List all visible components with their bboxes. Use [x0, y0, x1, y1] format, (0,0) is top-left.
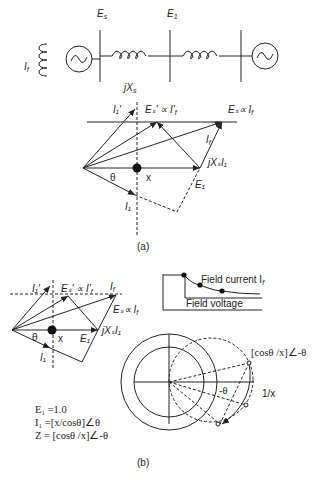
label-es-if: Eₛ∝ If: [228, 104, 254, 116]
equation-e1: E₁ =1.0: [35, 404, 67, 415]
reactance-label: jXs: [122, 82, 137, 94]
circuit-diagram: If Es jXs E1: [24, 8, 278, 94]
b-label-x: x: [58, 333, 63, 344]
b-label-jxs-i1: jXₛI₁: [100, 325, 121, 336]
phasor-figure: If Es jXs E1: [0, 0, 323, 480]
inductor-right-icon: [183, 51, 217, 59]
radius-label: 1/x: [262, 388, 275, 399]
equation-i1: I₁ =[x/cosθ]∠θ: [35, 417, 100, 428]
b-label-es-prime: Eₛ′ ∝ I′f: [61, 283, 94, 295]
label-es-prime: Eₛ′ ∝ I′f: [145, 104, 178, 116]
generator-left-icon: [66, 46, 92, 72]
b-label-theta: θ: [32, 332, 38, 343]
generator-right-icon: [252, 43, 278, 69]
label-jxs-i1: jXₛI₁: [206, 157, 227, 168]
field-current-label: If: [24, 61, 30, 73]
field-current-curve-label: Field current If: [201, 274, 265, 286]
equation-z: Z = [cosθ /x]∠-θ: [35, 430, 108, 441]
label-i1-prime: I₁′: [113, 104, 122, 115]
bus-e1-label: E1: [167, 8, 178, 20]
phasor-diagram-b: I₁′ Eₛ′ ∝ I′f If Eₛ∝ If jXₛI₁ θ x E₁ I₁: [10, 280, 139, 368]
center-dot: [133, 164, 142, 173]
bus-es-label: Es: [97, 8, 108, 20]
field-voltage-label: Field voltage: [186, 298, 243, 309]
label-e1: E₁: [195, 179, 205, 190]
angle-label: -θ: [219, 385, 228, 396]
b-label-i1: I₁: [40, 352, 46, 363]
phasor-diagram-a: I₁′ Eₛ′ ∝ I′f Eₛ∝ If If jXₛI₁ x θ E₁ I₁ …: [83, 102, 254, 252]
b-label-e1: E₁: [80, 333, 90, 344]
inductor-left-icon: [112, 51, 146, 59]
equations: E₁ =1.0 I₁ =[x/cosθ]∠θ Z = [cosθ /x]∠-θ: [35, 404, 108, 441]
label-i1: I₁: [125, 201, 131, 212]
label-x: x: [146, 172, 151, 183]
impedance-circle-chart: [cosθ /x]∠-θ -θ 1/x: [121, 334, 306, 430]
caption-a: (a): [137, 241, 149, 252]
impedance-label: [cosθ /x]∠-θ: [251, 347, 306, 358]
label-theta: θ: [110, 172, 116, 183]
field-chart: Field current If Field voltage: [163, 272, 265, 310]
caption-b: (b): [137, 457, 149, 468]
field-coil-icon: [39, 44, 47, 76]
b-label-i1-prime: I₁′: [32, 283, 41, 294]
b-label-if: If: [110, 281, 116, 293]
b-label-es-if: Eₛ∝ If: [113, 304, 139, 316]
